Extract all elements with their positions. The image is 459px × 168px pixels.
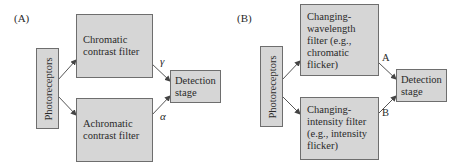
wavelength-line5: flicker) [307,59,378,71]
weight-a: A [382,52,390,63]
detection-line1: Detection [175,75,216,87]
wavelength-line4: chromatic [307,47,378,59]
photoreceptors-box-a: Photoreceptors [36,48,59,129]
wavelength-line3: filter (e.g., [307,35,378,47]
detection-stage-box-b: Detection stage [396,69,447,102]
chromatic-filter-line2: contrast filter [83,46,139,58]
detection-stage-box-a: Detection stage [170,70,221,103]
wavelength-line1: Changing- [307,11,378,23]
changing-intensity-filter-box: Changing- intensity filter (e.g., intens… [300,97,379,160]
changing-wavelength-filter-box: Changing- wavelength filter (e.g., chrom… [300,4,379,76]
photoreceptors-label: Photoreceptors [266,55,277,118]
chromatic-filter-line1: Chromatic [83,34,139,46]
intensity-line3: (e.g., intensity [307,128,378,140]
intensity-line4: flicker) [307,140,378,152]
photoreceptors-label: Photoreceptors [42,57,53,120]
intensity-line1: Changing- [307,104,378,116]
photoreceptors-box-b: Photoreceptors [260,46,283,127]
detection-line2: stage [401,86,442,98]
intensity-line2: intensity filter [307,116,378,128]
achromatic-filter-box: Achromatic contrast filter [76,98,153,162]
alpha-weight: α [160,110,166,122]
connector-arrows [0,0,459,168]
detection-line2: stage [175,87,216,99]
panel-a-label: (A) [14,12,29,24]
panel-b-label: (B) [237,12,252,24]
chromatic-filter-box: Chromatic contrast filter [76,14,153,78]
weight-b: B [382,107,389,118]
achromatic-filter-line2: contrast filter [83,130,139,142]
gamma-weight: γ [160,55,164,67]
detection-line1: Detection [401,74,442,86]
achromatic-filter-line1: Achromatic [83,118,139,130]
wavelength-line2: wavelength [307,23,378,35]
